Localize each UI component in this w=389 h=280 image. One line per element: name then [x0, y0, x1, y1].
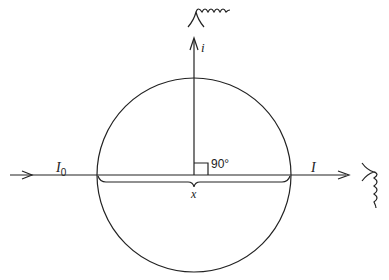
eye-top-icon [188, 9, 230, 27]
path-brace [98, 176, 290, 187]
eye-right-icon [362, 163, 377, 208]
light-scattering-diagram: I0 I i 90° x [0, 0, 389, 280]
angle-label: 90° [211, 157, 229, 171]
right-angle-marker [194, 163, 208, 175]
transmitted-intensity-label: I [310, 160, 317, 175]
path-length-label: x [190, 187, 197, 201]
scattered-intensity-label: i [201, 40, 205, 55]
